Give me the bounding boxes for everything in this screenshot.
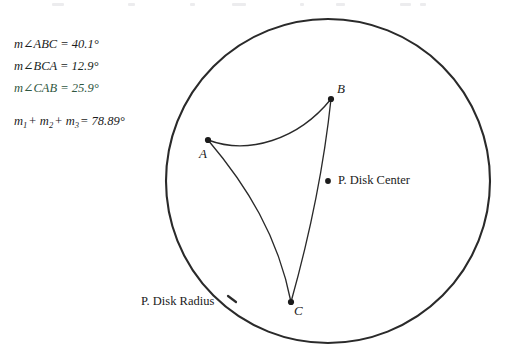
disk-center-label: P. Disk Center: [338, 173, 410, 188]
disk-center-dot: [325, 178, 331, 184]
disk-radius-label: P. Disk Radius: [141, 294, 214, 309]
disk-radius-leader-tick: [228, 296, 236, 302]
vertex-label-c: C: [294, 303, 303, 319]
vertex-dot-a: [205, 137, 211, 143]
vertex-label-a: A: [199, 146, 207, 162]
figure-canvas: m∠ABC = 40.1° m∠BCA = 12.9° m∠CAB = 25.9…: [0, 0, 510, 361]
vertex-label-b: B: [337, 81, 345, 97]
vertex-dot-b: [328, 96, 334, 102]
geodesic-side-ac: [208, 140, 291, 302]
geodesic-side-ab: [208, 99, 331, 146]
poincare-disk-figure: [0, 0, 510, 361]
